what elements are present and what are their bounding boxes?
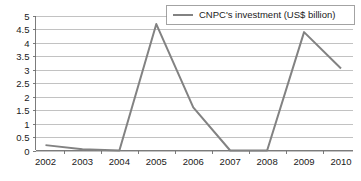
y-tick-label-4.5: 4.5 — [16, 24, 29, 35]
x-tick-label-2007: 2007 — [220, 156, 241, 167]
x-tick-label-2003: 2003 — [72, 156, 93, 167]
legend-label-cnpc-investment: CNPC's investment (US$ billion) — [199, 9, 335, 20]
chart-background — [0, 0, 361, 181]
y-tick-label-2.5: 2.5 — [16, 78, 29, 89]
y-tick-label-1.5: 1.5 — [16, 105, 29, 116]
chart-legend: CNPC's investment (US$ billion) — [167, 6, 355, 25]
x-tick-label-2004: 2004 — [109, 156, 130, 167]
x-tick-label-2002: 2002 — [35, 156, 56, 167]
y-tick-label-3: 3 — [24, 65, 29, 76]
x-tick-label-2008: 2008 — [257, 156, 278, 167]
y-axis-labels-group: 00.511.522.533.544.55 — [16, 11, 29, 157]
y-tick-label-3.5: 3.5 — [16, 51, 29, 62]
x-tick-label-2009: 2009 — [293, 156, 314, 167]
y-tick-label-4: 4 — [24, 38, 29, 49]
chart-canvas: 00.511.522.533.544.55 200220032004200520… — [0, 0, 361, 181]
x-axis-labels-group: 200220032004200520062007200820092010 — [35, 156, 352, 167]
y-tick-label-2: 2 — [24, 92, 29, 103]
line-chart-figure: 00.511.522.533.544.55 200220032004200520… — [0, 0, 361, 181]
y-tick-label-5: 5 — [24, 11, 29, 22]
x-tick-label-2005: 2005 — [146, 156, 167, 167]
y-tick-label-1: 1 — [24, 119, 29, 130]
x-tick-label-2010: 2010 — [330, 156, 351, 167]
y-tick-label-0: 0 — [24, 146, 29, 157]
y-tick-label-0.5: 0.5 — [16, 132, 29, 143]
x-tick-label-2006: 2006 — [183, 156, 204, 167]
